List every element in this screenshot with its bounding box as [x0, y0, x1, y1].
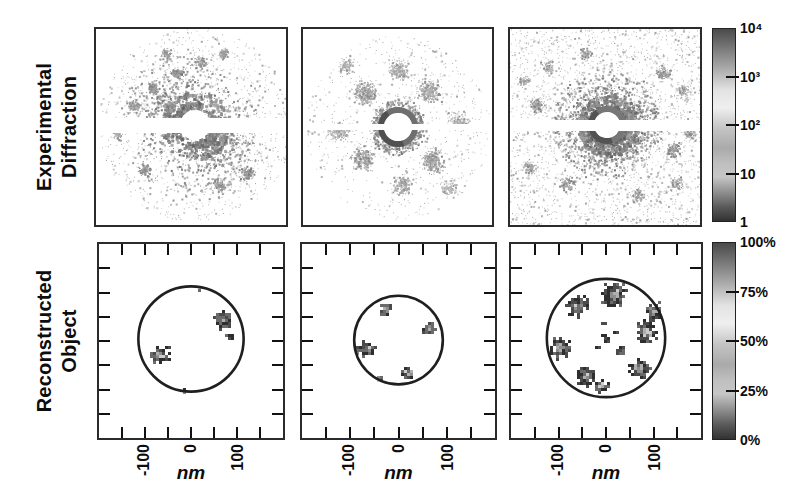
colorbar-tick-label: 10³: [740, 69, 760, 85]
x-axis-tick-label: -100: [135, 444, 153, 476]
row-label-text: Reconstructed Object: [32, 270, 82, 413]
diffraction-image-2: [303, 29, 492, 225]
colorbar-tick-label: 100%: [740, 234, 776, 250]
colorbar-tick-mark: [726, 390, 739, 392]
colorbar-tick-mark: [726, 76, 739, 78]
colorbar-tick-label: 25%: [740, 383, 768, 399]
diffraction-panel-3: [508, 27, 702, 227]
row-label-line: Reconstructed: [32, 270, 57, 413]
row-label-experimental-diffraction: Experimental Diffraction: [18, 27, 96, 227]
x-axis-unit-label: nm: [177, 462, 206, 484]
x-axis-tick-label: -100: [340, 444, 358, 476]
object-image-3: [511, 244, 701, 438]
colorbar-tick-label: 1: [740, 214, 748, 230]
object-panel-1: [97, 242, 285, 440]
x-axis-unit-label: nm: [592, 462, 621, 484]
row-label-line: Object: [57, 270, 82, 413]
object-panel-3: [509, 242, 703, 440]
diffraction-panel-1: [94, 27, 288, 227]
colorbar-tick-mark: [726, 173, 739, 175]
row-label-line: Diffraction: [57, 63, 82, 191]
x-axis-tick-label: 100: [229, 444, 247, 471]
colorbar-tick-mark: [726, 340, 739, 342]
object-panel-2: [300, 242, 497, 440]
object-image-2: [302, 244, 495, 438]
figure-canvas: Experimental Diffraction Reconstructed O…: [0, 0, 795, 499]
colorbar-tick-mark: [726, 124, 739, 126]
x-axis-tick-label: 100: [439, 444, 457, 471]
row-label-text: Experimental Diffraction: [32, 63, 82, 191]
colorbar-tick-mark: [726, 291, 739, 293]
row-label-line: Experimental: [32, 63, 57, 191]
row-label-reconstructed-object: Reconstructed Object: [18, 242, 96, 440]
colorbar-tick-label: 75%: [740, 284, 768, 300]
colorbar-tick-label: 0%: [740, 432, 760, 448]
x-axis-tick-label: 0: [390, 444, 408, 453]
x-axis-tick-label: -100: [549, 444, 567, 476]
colorbar-tick-label: 10: [740, 166, 756, 182]
colorbar-tick-label: 10⁴: [740, 20, 763, 36]
x-axis-tick-label: 0: [182, 444, 200, 453]
diffraction-image-3: [510, 29, 700, 225]
diffraction-image-1: [96, 29, 286, 225]
x-axis-tick-label: 100: [646, 444, 664, 471]
x-axis-tick-label: 0: [597, 444, 615, 453]
colorbar-tick-label: 10²: [740, 117, 760, 133]
diffraction-panel-2: [301, 27, 494, 227]
object-image-1: [99, 244, 283, 438]
x-axis-unit-label: nm: [384, 462, 413, 484]
colorbar-tick-label: 50%: [740, 333, 768, 349]
